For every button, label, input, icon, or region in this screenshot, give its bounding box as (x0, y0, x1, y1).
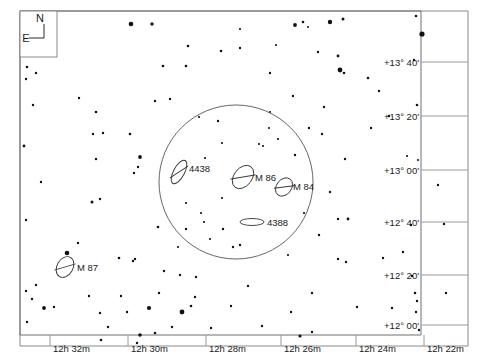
star-point (185, 228, 187, 230)
ra-tick-label: 12h 26m (284, 343, 321, 354)
star-point (163, 270, 165, 272)
dec-tick-label: +13° 40' (384, 57, 419, 68)
star-point (88, 295, 90, 297)
star-point (65, 251, 70, 256)
star-point (91, 201, 94, 204)
star-point (217, 120, 219, 122)
star-point (100, 339, 103, 342)
star-point (169, 98, 171, 100)
galaxy-label: 4388 (267, 217, 288, 228)
star-point (171, 326, 173, 328)
star-point (185, 202, 187, 204)
star-point (415, 15, 418, 18)
galaxy-ellipse (240, 219, 264, 226)
galaxy-label: M 84 (293, 181, 314, 192)
star-point (26, 66, 29, 69)
star-point (198, 116, 200, 118)
star-point (154, 100, 156, 102)
star-point (204, 157, 206, 159)
star-chart-container: +13° 40'+13° 20'+13° 00'+12° 40'+12° 20'… (0, 0, 477, 363)
star-point (220, 50, 223, 53)
star-point (344, 158, 346, 160)
star-point (185, 65, 188, 68)
dec-tick-label: +12° 20' (384, 270, 419, 281)
dec-tick-label: +12° 00' (384, 320, 419, 331)
star-point (154, 332, 157, 335)
star-point (32, 104, 34, 106)
star-point (261, 325, 263, 327)
star-chart-figure: +13° 40'+13° 20'+13° 00'+12° 40'+12° 20'… (0, 0, 477, 363)
star-point (194, 296, 196, 298)
star-point (269, 72, 271, 74)
star-point (343, 72, 346, 75)
star-point (107, 326, 109, 328)
star-point (99, 198, 101, 200)
star-point (23, 145, 26, 148)
star-point (78, 97, 80, 99)
star-point (303, 212, 305, 214)
star-point (136, 342, 138, 344)
star-point (311, 331, 313, 333)
star-point (190, 305, 193, 308)
ra-tick-label: 12h 22m (427, 343, 464, 354)
star-point (25, 219, 27, 221)
galaxy-label: M 87 (77, 262, 98, 273)
star-point (317, 51, 319, 53)
star-point (147, 306, 151, 310)
star-point (311, 292, 313, 294)
star-point (195, 276, 197, 278)
star-point (95, 111, 98, 114)
star-point (134, 258, 136, 260)
star-point (293, 23, 297, 27)
star-point (239, 47, 241, 49)
star-point (102, 132, 104, 134)
star-point (307, 26, 309, 28)
star-point (99, 312, 101, 314)
star-point (402, 251, 404, 253)
star-point (42, 306, 46, 310)
star-point (347, 218, 350, 221)
star-point (200, 212, 202, 214)
star-point (356, 306, 358, 308)
star-point (416, 300, 418, 302)
star-point (203, 221, 205, 223)
star-point (129, 133, 132, 136)
star-point (445, 292, 447, 294)
star-point (437, 184, 439, 186)
star-point (92, 133, 94, 135)
star-point (221, 142, 223, 144)
star-point (328, 20, 332, 24)
ra-tick-label: 12h 30m (131, 343, 168, 354)
dec-tick-label: +12° 40' (384, 217, 419, 228)
star-point (323, 106, 325, 108)
star-point (268, 127, 270, 129)
star-point (230, 305, 232, 307)
star-point (132, 260, 134, 262)
compass-east-label: E (22, 32, 29, 44)
star-point (294, 154, 296, 156)
star-point (209, 238, 211, 240)
star-point (258, 143, 260, 145)
star-point (338, 68, 343, 73)
star-point (31, 298, 33, 300)
star-point (239, 28, 241, 30)
star-point (222, 228, 224, 230)
star-point (419, 31, 424, 36)
star-point (417, 159, 419, 161)
galaxy-label: M 86 (255, 172, 276, 183)
star-point (25, 78, 27, 80)
star-point (210, 327, 212, 329)
star-point (415, 311, 417, 313)
star-point (150, 22, 153, 25)
star-point (162, 65, 165, 68)
star-point (95, 158, 97, 160)
star-point (410, 224, 412, 226)
star-point (370, 127, 372, 129)
star-point (221, 197, 223, 199)
star-point (318, 234, 320, 236)
star-point (247, 285, 249, 287)
star-point (413, 59, 415, 61)
star-point (302, 21, 305, 24)
star-point (443, 223, 445, 225)
star-point (35, 284, 37, 286)
